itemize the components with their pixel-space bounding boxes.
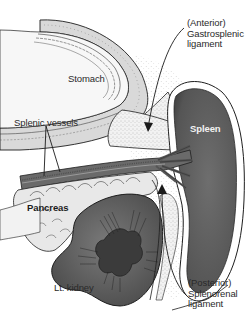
anterior-ligament-line3: ligament — [187, 39, 244, 50]
label-lt-kidney: Lt. kidney — [54, 283, 94, 294]
posterior-ligament-line3: ligament — [188, 299, 238, 310]
label-spleen: Spleen — [190, 124, 221, 135]
posterior-ligament-line1: (Posterior) — [188, 278, 238, 289]
anterior-ligament-line1: (Anterior) — [187, 18, 244, 29]
label-anterior-gastrosplenic-ligament: (Anterior) Gastrosplenic ligament — [187, 18, 244, 50]
label-posterior-splenorenal-ligament: (Posterior) Splenorenal ligament — [188, 278, 238, 310]
label-splenic-vessels: Splenic vessels — [14, 118, 78, 129]
label-pancreas: Pancreas — [27, 203, 68, 214]
label-stomach: Stomach — [68, 74, 105, 85]
